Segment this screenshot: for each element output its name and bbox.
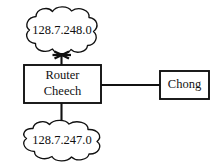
top-network-label: 128.7.248.0 — [32, 23, 91, 37]
bottom-network-label: 128.7.247.0 — [32, 133, 91, 147]
network-diagram: 128.7.248.0 Router Cheech Chong 128.7.24… — [0, 0, 220, 164]
node-router[interactable]: Router Cheech — [24, 65, 101, 103]
router-label-line-2: Cheech — [44, 84, 82, 98]
network-diagram-canvas: 128.7.248.0 Router Cheech Chong 128.7.24… — [0, 0, 220, 164]
node-top-network[interactable]: 128.7.248.0 — [27, 7, 97, 54]
node-bottom-network[interactable]: 128.7.247.0 — [24, 120, 100, 161]
router-label-line-1: Router — [45, 68, 80, 82]
node-host-chong[interactable]: Chong — [160, 71, 209, 99]
host-chong-label: Chong — [168, 77, 202, 91]
